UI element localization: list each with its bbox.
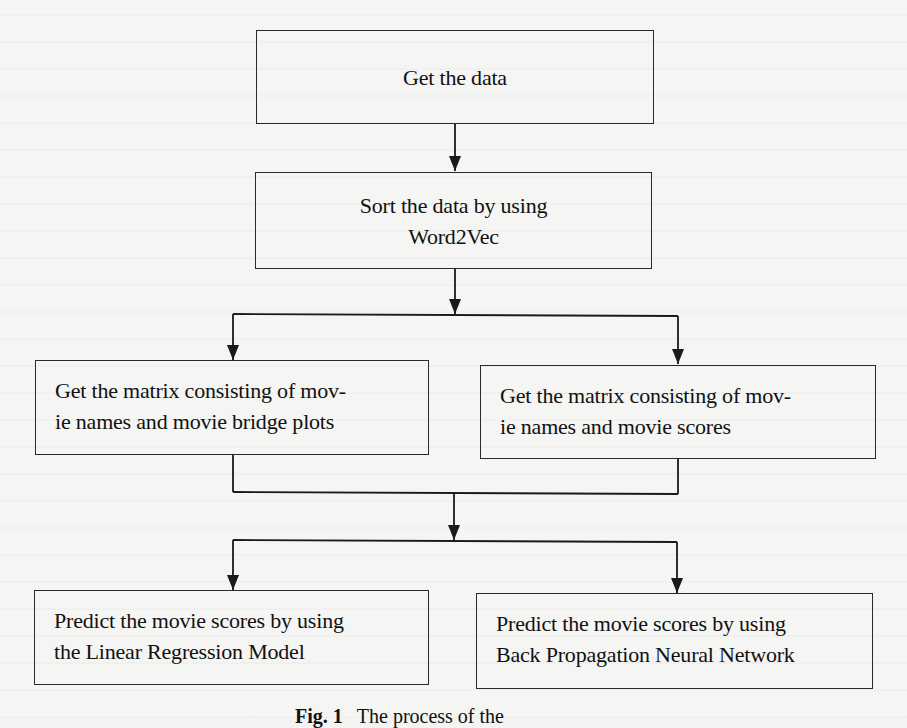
node-label: Get the matrix consisting of mov- — [55, 375, 428, 406]
node-label: the Linear Regression Model — [54, 636, 428, 667]
arrowhead-icon — [671, 578, 683, 593]
arrowhead-icon — [449, 299, 461, 314]
node-label: Get the data — [403, 62, 507, 93]
arrowhead-icon — [672, 349, 684, 364]
node-label: ie names and movie scores — [500, 411, 875, 442]
node-matrix-scores: Get the matrix consisting of mov- ie nam… — [480, 365, 876, 459]
arrowhead-icon — [227, 575, 239, 590]
node-predict-linear-regression: Predict the movie scores by using the Li… — [34, 590, 429, 685]
node-get-data: Get the data — [256, 30, 654, 124]
node-label: Predict the movie scores by using — [54, 605, 428, 636]
node-label: Word2Vec — [408, 221, 499, 252]
arrowhead-icon — [449, 156, 461, 171]
arrowhead-icon — [448, 525, 460, 540]
figure-caption: Fig. 1The process of the — [295, 704, 504, 728]
node-matrix-plots: Get the matrix consisting of mov- ie nam… — [35, 360, 429, 455]
figure-caption-text: The process of the — [357, 705, 504, 727]
node-label: Sort the data by using — [360, 190, 547, 221]
figure-label: Fig. 1 — [295, 705, 343, 727]
node-label: ie names and movie bridge plots — [55, 406, 428, 437]
node-predict-bpnn: Predict the movie scores by using Back P… — [476, 593, 873, 689]
node-label: Get the matrix consisting of mov- — [500, 380, 875, 411]
arrowhead-icon — [227, 345, 239, 360]
node-sort-data: Sort the data by using Word2Vec — [255, 172, 652, 269]
node-label: Back Propagation Neural Network — [496, 639, 872, 670]
node-label: Predict the movie scores by using — [496, 608, 872, 639]
